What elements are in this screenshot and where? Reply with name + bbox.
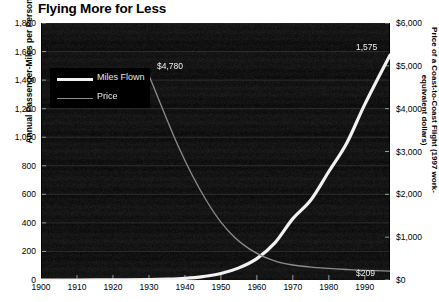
y-tick-right-3000: $3,000 bbox=[396, 147, 422, 157]
y-tick-left-400: 400 bbox=[22, 218, 36, 228]
price-start-label: $4,780 bbox=[157, 61, 183, 71]
y-tick-left-600: 600 bbox=[22, 189, 36, 199]
y-tick-left-1200: 1,200 bbox=[15, 104, 36, 114]
legend-swatch-price bbox=[57, 98, 93, 99]
x-tick-1940: 1940 bbox=[175, 282, 194, 292]
legend-item-miles-flown[interactable]: Miles Flown bbox=[50, 69, 150, 89]
chart-legend: Miles Flown Price bbox=[50, 68, 150, 108]
y-axis-tick-labels-left: 02004006008001,0001,2001,4001,6001,800 bbox=[0, 23, 36, 280]
x-tick-1990: 1990 bbox=[355, 282, 374, 292]
x-tick-1930: 1930 bbox=[139, 282, 158, 292]
x-tick-1920: 1920 bbox=[103, 282, 122, 292]
legend-item-price[interactable]: Price bbox=[50, 88, 150, 108]
y-tick-right-4000: $4,000 bbox=[396, 104, 422, 114]
y-tick-left-1400: 1,400 bbox=[15, 75, 36, 85]
miles-end-label: 1,575 bbox=[356, 42, 377, 52]
legend-label-price: Price bbox=[97, 91, 118, 101]
x-tick-1900: 1900 bbox=[32, 282, 51, 292]
series-line-price bbox=[149, 75, 390, 271]
y-tick-left-1800: 1,800 bbox=[15, 18, 36, 28]
y-tick-left-200: 200 bbox=[22, 246, 36, 256]
x-tick-1960: 1960 bbox=[247, 282, 266, 292]
y-tick-left-800: 800 bbox=[22, 161, 36, 171]
y-tick-right-2000: $2,000 bbox=[396, 189, 422, 199]
plot-area: Miles Flown Price $4,780 1,575 $209 bbox=[41, 23, 390, 280]
x-tick-1970: 1970 bbox=[283, 282, 302, 292]
chart-figure: Flying More for Less Annual Passenger-Mi… bbox=[0, 0, 439, 302]
y-tick-right-6000: $6,000 bbox=[396, 18, 422, 28]
y-tick-left-1600: 1,600 bbox=[15, 47, 36, 57]
y-tick-left-1000: 1,000 bbox=[15, 132, 36, 142]
x-tick-1950: 1950 bbox=[211, 282, 230, 292]
y-tick-right-1000: $1,000 bbox=[396, 232, 422, 242]
y-axis-tick-labels-right: $0$1,000$2,000$3,000$4,000$5,000$6,000 bbox=[396, 23, 436, 280]
chart-title: Flying More for Less bbox=[38, 1, 166, 16]
x-tick-1980: 1980 bbox=[319, 282, 338, 292]
x-axis-tick-labels: 1900191019201930194019501960197019801990 bbox=[41, 282, 390, 296]
series-lines bbox=[41, 23, 390, 280]
price-end-label: $209 bbox=[356, 268, 375, 278]
y-tick-right-0: $0 bbox=[396, 275, 405, 285]
legend-label-miles-flown: Miles Flown bbox=[97, 72, 145, 82]
y-tick-right-5000: $5,000 bbox=[396, 61, 422, 71]
x-tick-1910: 1910 bbox=[68, 282, 87, 292]
legend-swatch-miles-flown bbox=[57, 78, 93, 81]
